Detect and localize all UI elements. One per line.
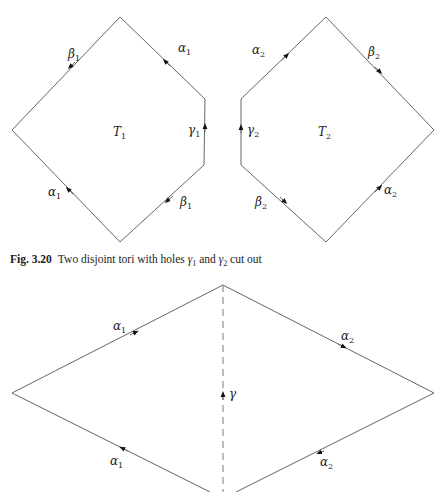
label-T1: T1 bbox=[113, 125, 126, 141]
torus-2-polygon bbox=[241, 17, 434, 242]
label-alpha2-top: α2 bbox=[252, 43, 265, 59]
figure-canvas: β1 α1 γ1 β1 α1 T1 α2 β2 γ2 β2 α2 T2 α1 α… bbox=[0, 0, 446, 492]
label-alpha2-lower: α2 bbox=[320, 455, 333, 471]
label-beta1-bottom: β1 bbox=[179, 195, 192, 211]
arrow-alpha2-lower bbox=[319, 451, 324, 453]
label-beta2-bottom: β2 bbox=[254, 195, 267, 211]
label-T2: T2 bbox=[318, 125, 331, 141]
label-alpha1-bottom: α1 bbox=[48, 185, 61, 201]
arrow-alpha2-bottom bbox=[375, 187, 380, 192]
label-beta2-top: β2 bbox=[367, 45, 380, 61]
arrow-alpha1-top bbox=[165, 61, 170, 66]
label-gamma1: γ1 bbox=[188, 123, 200, 139]
label-alpha1-top: α1 bbox=[178, 41, 191, 57]
connected-sum-polygon bbox=[12, 285, 434, 492]
caption-text-1: Two disjoint tori with holes bbox=[58, 253, 188, 265]
label-alpha2-upper: α2 bbox=[341, 329, 354, 345]
label-gamma: γ bbox=[229, 387, 237, 401]
caption-text-2: and bbox=[196, 253, 218, 265]
label-beta1-top: β1 bbox=[67, 47, 80, 63]
label-alpha2-bottom: α2 bbox=[384, 183, 397, 199]
torus-1-polygon bbox=[12, 17, 205, 242]
label-alpha1-lower: α1 bbox=[110, 454, 123, 470]
figure-caption: Fig. 3.20Two disjoint tori with holes γ1… bbox=[10, 253, 262, 268]
label-gamma2: γ2 bbox=[247, 123, 259, 139]
figure-number: Fig. 3.20 bbox=[10, 253, 52, 265]
arrow-alpha1-bottom bbox=[68, 189, 73, 194]
label-alpha1-upper: α1 bbox=[113, 319, 126, 335]
arrow-alpha2-top bbox=[282, 55, 287, 60]
caption-text-3: cut out bbox=[227, 253, 262, 265]
connected-sum-labels: α1 α2 α1 α2 γ bbox=[110, 319, 354, 471]
arrow-alpha2-upper bbox=[338, 344, 344, 347]
arrow-alpha1-lower bbox=[122, 448, 128, 451]
